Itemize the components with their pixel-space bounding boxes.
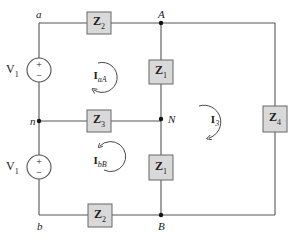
z2-top-label: Z2: [93, 15, 105, 30]
z3-label: Z3: [93, 113, 105, 128]
minus-sign-top: −: [36, 71, 42, 81]
current-label-ibb: IbB: [93, 155, 106, 169]
current-label-i3: I3: [211, 114, 219, 128]
plus-sign-top: +: [36, 60, 42, 70]
node-label-a: a: [36, 9, 42, 20]
minus-sign-bottom: −: [36, 168, 42, 178]
node-label-n: n: [30, 116, 36, 127]
plus-sign-bottom: +: [36, 157, 42, 167]
node-label-N: N: [168, 114, 175, 125]
current-label-iaa: IaA: [93, 70, 106, 84]
z1-bottom-label: Z1: [155, 160, 167, 175]
z2-bottom-label: Z2: [94, 208, 106, 223]
source-label-top: V1: [6, 63, 19, 78]
source-label-bottom: V1: [6, 160, 19, 175]
node-label-B: B: [158, 221, 165, 232]
z1-top-label: Z1: [155, 64, 167, 79]
node-label-A: A: [158, 9, 165, 20]
circuit-wires: [0, 0, 297, 243]
z4-label: Z4: [269, 111, 281, 126]
circuit-diagram: a A n N b B V1 V1 + − + − Z2 Z1 Z3 Z1 Z2…: [0, 0, 297, 243]
node-label-b: b: [37, 221, 43, 232]
